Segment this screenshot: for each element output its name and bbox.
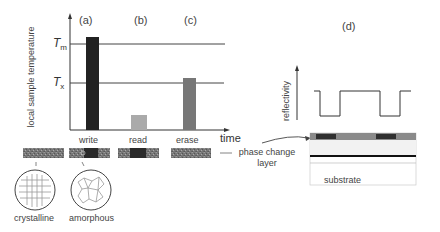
- read-label: read: [129, 135, 147, 145]
- panel-label-c: (c): [184, 14, 197, 26]
- temperature-axis-label: local sample temperature: [26, 17, 36, 137]
- erase-label: erase: [176, 135, 199, 145]
- reflectivity-axis-label: reflectivity: [281, 71, 291, 131]
- amorphous-circle: [71, 170, 111, 210]
- panel-label-d: (d): [342, 20, 355, 32]
- diagram-graphics: [0, 0, 440, 232]
- reflectivity-trace: [314, 91, 411, 116]
- tx-label: Tx: [53, 75, 64, 91]
- tm-label: Tm: [53, 36, 67, 52]
- crystalline-label: crystalline: [14, 213, 54, 223]
- time-axis-label: time: [220, 132, 241, 144]
- panel-label-b: (b): [134, 14, 147, 26]
- sample-strips: [23, 148, 211, 158]
- substrate-label: substrate: [324, 175, 361, 185]
- phase-change-memory-diagram: (a) (b) (c) (d) local sample temperature…: [0, 0, 440, 232]
- crystalline-circle: [15, 170, 55, 210]
- erase-bar: [183, 78, 196, 130]
- write-bar: [86, 37, 99, 130]
- write-label: write: [79, 135, 98, 145]
- read-bar: [131, 115, 147, 130]
- panel-label-a: (a): [79, 14, 92, 26]
- amorphous-label: amorphous: [69, 213, 114, 223]
- phase-change-layer-label: phase change layer: [236, 147, 298, 169]
